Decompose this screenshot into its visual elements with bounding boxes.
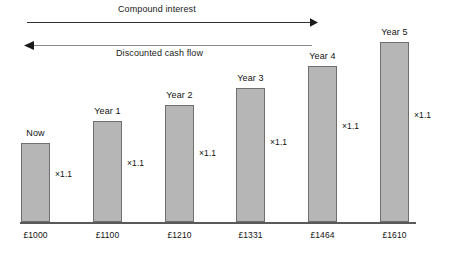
axis-value-year-2: £1210	[150, 230, 209, 240]
growth-label-now: ×1.1	[55, 169, 72, 179]
compound-interest-arrow	[27, 18, 318, 27]
growth-label-year-5: ×1.1	[414, 110, 431, 120]
bar-label-year-4: Year 4	[293, 51, 352, 61]
growth-label-year-1: ×1.1	[127, 158, 144, 168]
axis-value-now: £1000	[6, 230, 65, 240]
growth-label-year-3: ×1.1	[270, 137, 287, 147]
bar-label-year-1: Year 1	[78, 106, 137, 116]
bar-now	[21, 143, 50, 222]
bar-label-year-5: Year 5	[365, 27, 424, 37]
axis-value-year-5: £1610	[365, 230, 424, 240]
bar-year-4	[308, 66, 337, 222]
bar-label-year-2: Year 2	[150, 90, 209, 100]
bar-year-1	[93, 121, 122, 222]
compound-interest-bar-chart: Compound interest Discounted cash flow N…	[0, 0, 451, 253]
axis-value-year-3: £1331	[221, 230, 280, 240]
bar-label-now: Now	[6, 128, 65, 138]
discounted-cash-flow-label: Discounted cash flow	[116, 48, 203, 58]
x-axis-baseline	[20, 222, 416, 224]
axis-value-year-4: £1464	[293, 230, 352, 240]
bar-year-3	[236, 88, 265, 222]
growth-label-year-2: ×1.1	[199, 148, 216, 158]
compound-interest-label: Compound interest	[118, 4, 196, 14]
bar-label-year-3: Year 3	[221, 73, 280, 83]
growth-label-year-4: ×1.1	[342, 121, 359, 131]
bar-year-2	[165, 105, 194, 222]
axis-value-year-1: £1100	[78, 230, 137, 240]
bar-year-5	[380, 42, 409, 222]
